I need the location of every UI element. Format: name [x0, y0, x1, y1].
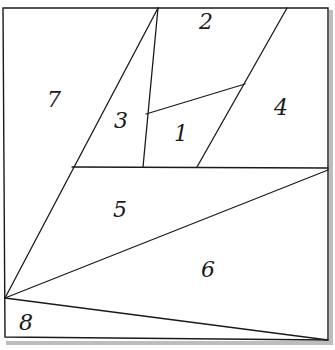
region-label-7: 7 [47, 87, 61, 112]
region-label-2: 2 [198, 9, 213, 34]
region-label-5: 5 [113, 197, 127, 222]
region-label-8: 8 [19, 310, 33, 335]
region-label-1: 1 [174, 121, 188, 146]
diagram-canvas: 1 2 3 4 5 6 7 8 [0, 0, 335, 350]
region-label-3: 3 [114, 108, 128, 133]
outer-square [3, 8, 328, 340]
region-label-4: 4 [273, 95, 288, 120]
region-label-6: 6 [201, 257, 215, 282]
